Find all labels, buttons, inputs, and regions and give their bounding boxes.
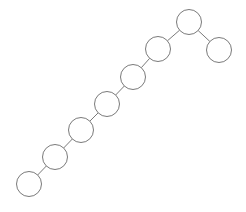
tree-edge [198,31,210,42]
tree-graphic [0,0,246,212]
tree-diagram [0,0,246,212]
tree-node [95,92,120,117]
nodes-group [17,10,232,197]
tree-node [43,145,68,170]
tree-node [121,65,146,90]
tree-edge [116,86,125,95]
tree-node [207,38,232,63]
tree-node [69,118,94,143]
tree-edge [141,58,149,67]
tree-edge [38,166,47,175]
tree-edge [90,113,98,121]
tree-node [17,172,42,197]
tree-node [177,10,202,35]
tree-edge [167,30,179,41]
tree-edge [64,139,73,148]
tree-node [146,37,171,62]
